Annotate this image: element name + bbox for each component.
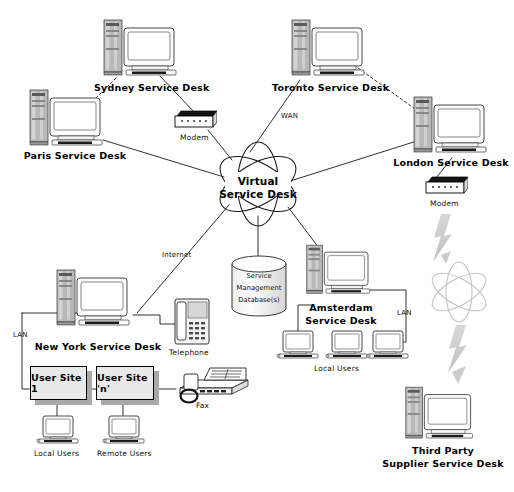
node-ny-remote-users[interactable] xyxy=(102,415,146,449)
label-wan: WAN xyxy=(281,112,298,120)
node-ny-local-users[interactable] xyxy=(36,415,80,449)
wireless-bolt-icon xyxy=(433,214,467,384)
node-newyork[interactable] xyxy=(55,268,135,334)
desktop-pc-icon xyxy=(366,330,410,360)
site-n-box[interactable]: User Site 'n' xyxy=(96,366,154,400)
label-sydney: Sydney Service Desk xyxy=(94,83,206,94)
label-modem-london: Modem xyxy=(430,199,459,208)
label-amsterdam-line2: Service Desk xyxy=(296,316,386,327)
label-thirdparty: Third Party xyxy=(383,446,503,457)
workstation-icon xyxy=(55,268,135,330)
label-ams-local-users: Local Users xyxy=(314,364,359,373)
cloud-label-line1: Virtual xyxy=(218,175,298,188)
label-toronto: Toronto Service Desk xyxy=(272,83,388,94)
workstation-icon xyxy=(305,243,375,298)
label-telephone: Telephone xyxy=(169,348,209,357)
desktop-pc-icon xyxy=(102,415,146,445)
link-newyork-telephone xyxy=(133,315,176,324)
diagram-canvas: Sydney Service Desk Paris Service Desk xyxy=(0,0,514,492)
node-amsterdam[interactable] xyxy=(305,243,375,302)
site-1-box[interactable]: User Site 1 xyxy=(30,366,87,400)
label-modem-sydney: Modem xyxy=(180,133,209,142)
node-thirdparty[interactable] xyxy=(404,385,478,447)
telephone-icon xyxy=(174,298,210,346)
node-ams-pc-3[interactable] xyxy=(366,330,410,364)
node-london[interactable] xyxy=(412,95,492,161)
workstation-icon xyxy=(290,18,370,80)
label-paris: Paris Service Desk xyxy=(20,151,130,162)
workstation-icon xyxy=(102,18,182,80)
node-paris[interactable] xyxy=(28,88,108,154)
label-internet: Internet xyxy=(162,251,191,259)
database-label-line2: Management xyxy=(222,284,296,294)
modem-icon xyxy=(173,110,217,132)
desktop-pc-icon xyxy=(325,330,369,360)
modem-icon xyxy=(424,176,468,198)
device-fax[interactable] xyxy=(172,366,250,410)
workstation-icon xyxy=(28,88,108,150)
node-ams-pc-1[interactable] xyxy=(276,330,320,364)
label-fax: Fax xyxy=(196,401,209,410)
desktop-pc-icon xyxy=(36,415,80,445)
database-label-line3: Database(s) xyxy=(222,296,296,306)
database-label-line1: Service xyxy=(228,272,290,282)
wireless-atom-icon xyxy=(427,262,492,322)
label-amsterdam: Amsterdam xyxy=(296,303,386,314)
node-ams-pc-2[interactable] xyxy=(325,330,369,364)
link-cloud-newyork xyxy=(137,205,229,313)
label-newyork: New York Service Desk xyxy=(32,342,164,353)
workstation-icon xyxy=(404,385,478,443)
label-lan-left: LAN xyxy=(13,331,28,339)
device-telephone[interactable] xyxy=(174,298,210,350)
label-thirdparty-line2: Supplier Service Desk xyxy=(373,459,513,470)
workstation-icon xyxy=(412,95,492,157)
label-lan-right: LAN xyxy=(397,309,412,317)
cloud-label-line2: Service Desk xyxy=(208,188,308,201)
label-ny-remote-users: Remote Users xyxy=(97,449,152,458)
label-ny-local-users: Local Users xyxy=(34,449,79,458)
fax-icon xyxy=(172,366,250,406)
desktop-pc-icon xyxy=(276,330,320,360)
label-london: London Service Desk xyxy=(392,158,510,169)
node-sydney[interactable] xyxy=(102,18,182,84)
node-toronto[interactable] xyxy=(290,18,370,84)
